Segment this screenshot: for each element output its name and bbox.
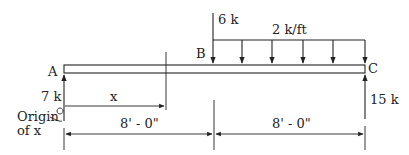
point-load-label: 6 k — [218, 12, 238, 27]
reaction-c-label: 15 k — [370, 92, 399, 107]
dim-bc-label: 8' - 0" — [272, 116, 311, 131]
origin-label-line1: Origin — [17, 109, 60, 124]
reaction-a-label: 7 k — [41, 89, 61, 104]
distributed-load-label: 2 k/ft — [272, 22, 307, 37]
beam-diagram: 2 k/ft 6 k A B C 7 k 15 k x Origin of x … — [0, 0, 409, 155]
dim-ab-label: 8' - 0" — [120, 116, 159, 131]
origin-label-line2: of x — [17, 123, 42, 138]
x-label: x — [110, 89, 118, 104]
point-b-label: B — [196, 46, 206, 61]
point-a-label: A — [47, 64, 58, 79]
beam — [64, 65, 365, 73]
distributed-load — [213, 40, 365, 63]
point-c-label: C — [368, 61, 378, 76]
